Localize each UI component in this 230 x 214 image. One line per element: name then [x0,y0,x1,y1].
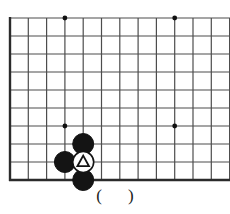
star-point-top-left [63,16,68,21]
go-board-figure: () [0,0,230,214]
goban-grid[interactable] [0,0,230,214]
star-point-bottom-right [172,124,177,129]
caption-open-paren: ( [96,186,102,206]
star-point-bottom-left [63,124,68,129]
star-point-top-right [172,16,177,21]
caption-close-paren: ) [128,186,134,206]
caption: () [0,186,230,206]
stones-group [54,134,93,191]
